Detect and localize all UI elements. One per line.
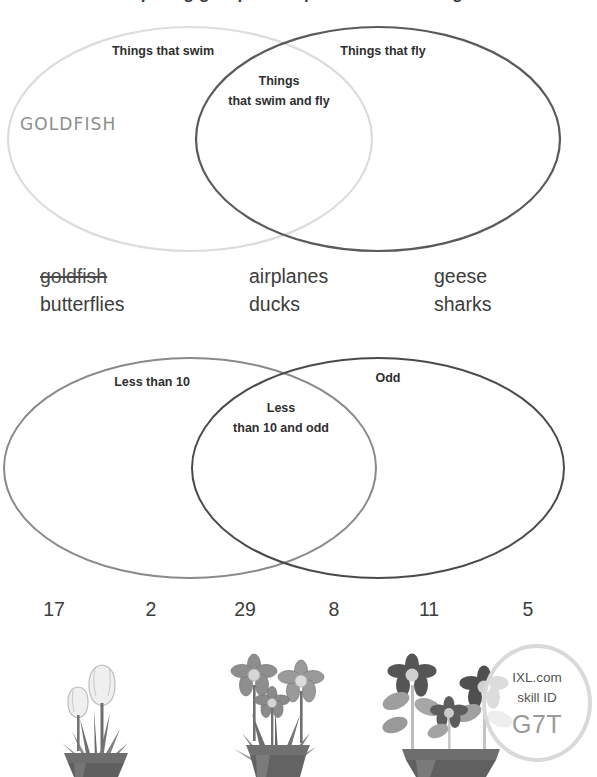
- word-column-2: airplanes ducks: [249, 262, 328, 318]
- venn-diagram-1: [0, 14, 597, 264]
- venn-diagram-2: [0, 348, 597, 593]
- venn2-left-label: Less than 10: [114, 373, 190, 391]
- number-bank: 17 2 29 8 11 5: [0, 598, 597, 632]
- ixl-site-label: IXL.com: [512, 668, 562, 687]
- number-item[interactable]: 17: [43, 598, 65, 621]
- venn1-left-label: Things that swim: [112, 42, 214, 60]
- number-item[interactable]: 5: [523, 598, 534, 621]
- venn1-center-label-line2: that swim and fly: [228, 92, 329, 110]
- worksheet-page: Comparing groups: complete the Venn diag…: [0, 0, 597, 777]
- number-item[interactable]: 2: [146, 598, 157, 621]
- tulip-flower-large: [89, 665, 115, 749]
- ixl-skill-id-label: skill ID: [517, 688, 557, 707]
- word-item[interactable]: goldfish: [40, 262, 125, 290]
- word-column-3: geese sharks: [434, 262, 491, 318]
- venn2-center-label-line1: Less: [267, 399, 296, 417]
- flower-pot: [246, 745, 310, 777]
- ixl-badge: IXL.com skill ID G7T: [482, 644, 592, 762]
- ixl-badge-text: IXL.com skill ID G7T: [482, 644, 592, 762]
- page-title: Comparing groups: complete the Venn diag…: [0, 0, 597, 4]
- word-item[interactable]: butterflies: [40, 290, 125, 318]
- number-item[interactable]: 11: [419, 598, 439, 621]
- flower-pot: [64, 753, 128, 777]
- venn2-center-label-line2: than 10 and odd: [233, 419, 329, 437]
- word-item[interactable]: sharks: [434, 290, 491, 318]
- word-column-1: goldfish butterflies: [40, 262, 125, 318]
- number-item[interactable]: 8: [329, 598, 340, 621]
- venn1-right-label: Things that fly: [340, 42, 425, 60]
- venn1-left-circle: [8, 27, 372, 251]
- daisy-pot-illustration: [212, 645, 340, 777]
- number-item[interactable]: 29: [234, 598, 256, 621]
- venn2-right-circle: [192, 358, 564, 578]
- venn2-left-circle: [4, 358, 376, 578]
- ixl-skill-code: G7T: [512, 710, 562, 738]
- venn1-answer-left[interactable]: GOLDFISH: [20, 114, 116, 134]
- venn2-right-label: Odd: [376, 369, 401, 387]
- venn1-right-circle: [196, 27, 560, 251]
- word-item[interactable]: airplanes: [249, 262, 328, 290]
- tulip-pot-illustration: [36, 647, 156, 777]
- venn1-center-label-line1: Things: [259, 72, 300, 90]
- word-bank: goldfish butterflies airplanes ducks gee…: [0, 262, 597, 334]
- word-item[interactable]: geese: [434, 262, 491, 290]
- word-item[interactable]: ducks: [249, 290, 328, 318]
